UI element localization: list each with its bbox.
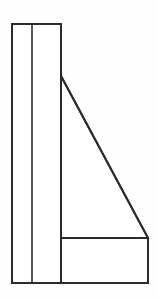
technical-drawing-svg	[0, 0, 158, 300]
drawing-canvas	[0, 0, 158, 300]
